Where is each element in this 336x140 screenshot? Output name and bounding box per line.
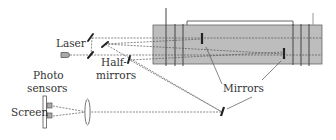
detector: [43, 96, 90, 128]
beam-lens-to-sensor1: [53, 106, 87, 112]
optical-diagram: Laser Half- mirrors Mirrors Photo sensor…: [0, 0, 336, 140]
chamber-top-bracket: [187, 21, 293, 25]
half-mirror-3: [102, 42, 108, 47]
label-photo-sensors-1: Photo: [33, 69, 64, 81]
mirror-bottom: [221, 107, 224, 116]
chamber-body: [153, 25, 322, 64]
label-photo-sensors-2: sensors: [27, 82, 67, 94]
half-mirror-4: [128, 56, 130, 63]
label-mirrors: Mirrors: [223, 82, 264, 94]
label-laser: Laser: [56, 37, 87, 49]
laser: [61, 53, 70, 58]
beam-lens-to-sensor2: [53, 112, 87, 116]
label-half-mirrors-1: Half-: [101, 56, 127, 68]
lens: [85, 99, 90, 125]
label-half-mirrors-2: mirrors: [96, 69, 136, 81]
leader-mirror-bottom: [227, 97, 252, 109]
laser-icon: [61, 53, 70, 58]
label-screen: Screen: [11, 106, 49, 118]
half-mirror-1: [88, 34, 93, 41]
